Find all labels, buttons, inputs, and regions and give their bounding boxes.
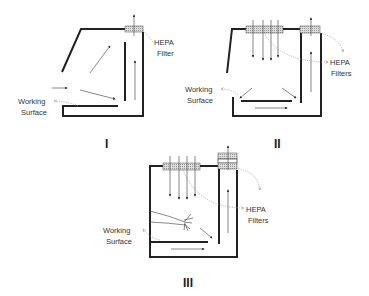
cabinet-i-front-top-wall bbox=[62, 29, 125, 72]
cabinet-class-i: HEPA Filter Working Surface I bbox=[18, 15, 174, 151]
surface-leader-line bbox=[221, 89, 238, 95]
filter-leader-line bbox=[143, 30, 153, 42]
airflow-arrow-icon bbox=[80, 90, 115, 99]
airflow-arrow-icon bbox=[200, 228, 212, 238]
hepa-exhaust-filter-iii-inner bbox=[218, 163, 237, 169]
cabinet-ii-body bbox=[233, 33, 321, 116]
filter-label-ii-line2: Filters bbox=[331, 69, 352, 78]
filter-label-i-line2: Filter bbox=[157, 49, 174, 58]
filter-label-i-line1: HEPA bbox=[154, 38, 174, 47]
cabinet-iii-body bbox=[150, 166, 237, 257]
surface-label-ii-line1: Working bbox=[185, 85, 212, 94]
surface-label-ii-line2: Surface bbox=[187, 96, 213, 105]
filter-leader-line bbox=[183, 170, 244, 208]
airflow-arrow-icon bbox=[282, 88, 296, 98]
biosafety-cabinet-diagram: HEPA Filter Working Surface I HEPA Filte… bbox=[0, 0, 369, 296]
diagram-number-i: I bbox=[105, 137, 108, 151]
hepa-exhaust-filter-iii-outer bbox=[218, 153, 237, 159]
airflow-arrow-icon bbox=[240, 88, 252, 98]
hepa-supply-filter-ii bbox=[246, 26, 283, 33]
filter-leader-line bbox=[320, 33, 343, 52]
filter-label-iii-line2: Filters bbox=[248, 216, 269, 225]
diagram-number-ii: II bbox=[274, 137, 281, 151]
glove-port-icon bbox=[150, 211, 193, 231]
hepa-exhaust-filter-ii bbox=[300, 26, 320, 33]
filter-housing-gap bbox=[218, 159, 237, 163]
surface-label-iii-line1: Working bbox=[103, 226, 130, 235]
cabinet-ii-front-top-wall bbox=[227, 29, 246, 73]
filter-label-iii-line1: HEPA bbox=[246, 205, 266, 214]
surface-label-i-line2: Surface bbox=[21, 108, 47, 117]
airflow-arrow-icon bbox=[90, 46, 110, 73]
cabinet-class-iii: HEPA Filters Working Surface III bbox=[103, 146, 269, 290]
surface-label-iii-line2: Surface bbox=[106, 237, 132, 246]
cabinet-class-ii: HEPA Filters Working Surface II bbox=[185, 18, 352, 151]
hepa-supply-filter-iii bbox=[163, 163, 200, 170]
filter-label-ii-line1: HEPA bbox=[330, 58, 350, 67]
filter-leader-line bbox=[236, 168, 260, 190]
diagram-number-iii: III bbox=[183, 276, 193, 290]
surface-label-i-line1: Working bbox=[18, 97, 45, 106]
surface-leader-line bbox=[143, 229, 160, 240]
filter-leader-line bbox=[264, 33, 328, 62]
